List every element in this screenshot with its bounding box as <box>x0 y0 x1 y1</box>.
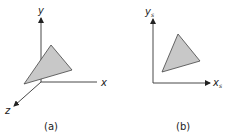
diagram-canvas: y x z (a) ys xs (b) <box>0 0 229 140</box>
y-axis-label: y <box>37 5 45 16</box>
triangle-3d <box>24 45 72 84</box>
z-axis <box>14 82 41 106</box>
x-axis-label: x <box>100 77 107 88</box>
ys-axis-label: ys <box>144 6 154 18</box>
panel-b-caption: (b) <box>176 121 190 132</box>
panel-b-screen-coordinates: ys xs (b) <box>144 6 222 132</box>
panel-a-3d-coordinates: y x z (a) <box>4 5 107 132</box>
xs-axis-label: xs <box>212 77 222 89</box>
triangle-projected <box>162 34 200 72</box>
z-axis-label: z <box>4 105 11 116</box>
panel-a-caption: (a) <box>44 121 58 132</box>
